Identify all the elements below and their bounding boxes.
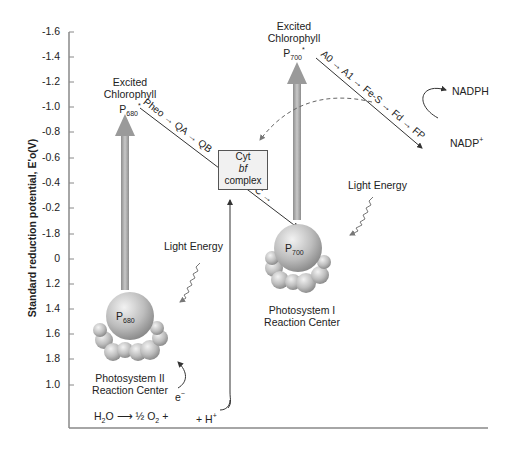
proton-label: + H+: [196, 410, 217, 425]
diagram-graphics: [0, 0, 510, 449]
electron-arrow: [178, 362, 186, 388]
ps2-excitation-arrow: [115, 114, 135, 290]
nadp-label: NADP+: [450, 134, 483, 149]
electron-label: e−: [175, 388, 185, 403]
p700-label: P700: [285, 242, 304, 259]
y-tick: 1.8: [24, 352, 60, 364]
p680-label: P680: [116, 310, 135, 327]
cyclic-path: [260, 98, 372, 140]
ps1-excitation-arrow: [287, 62, 307, 220]
proton-arrow: [228, 200, 231, 408]
y-tick: -1.4: [24, 50, 60, 62]
nadp-reduction-arrow: [423, 88, 446, 118]
ps1-light-energy: Light Energy: [348, 179, 407, 191]
water-splitting-equation: H2O ⟶ ½ O2 +: [94, 410, 168, 427]
cyt-bf-complex: Cyt bf complex: [218, 150, 268, 190]
ps2-light-energy: Light Energy: [164, 240, 223, 252]
y-tick: -1.2: [24, 75, 60, 87]
ps2-caption: Photosystem II Reaction Center: [90, 372, 170, 396]
ps1-excited-label: Excited Chlorophyll P700*: [262, 20, 326, 64]
ps1-caption: Photosystem I Reaction Center: [262, 304, 342, 328]
y-tick: 1.0: [24, 378, 60, 390]
light-squiggle-ps2: [180, 263, 200, 302]
light-squiggle-ps1: [350, 197, 373, 235]
nadph-label: NADPH: [452, 85, 489, 97]
y-axis-label: Standard reduction potential, E'o(V): [26, 108, 38, 348]
y-tick: -1.6: [24, 25, 60, 37]
z-scheme-diagram: -1.6 -1.4 -1.2 -1.0 -0.8 -0.6 -0.4 -0.2 …: [0, 0, 510, 449]
